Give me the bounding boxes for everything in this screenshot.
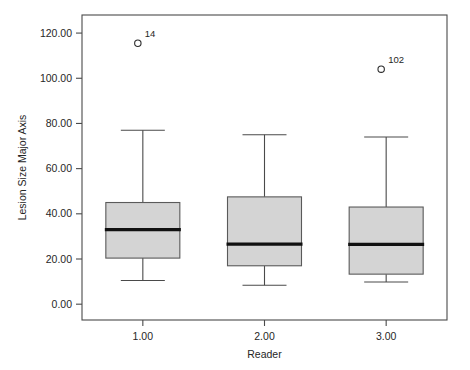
boxplot-canvas: 0.0020.0040.0060.0080.00100.00120.00 1.0… <box>0 0 470 370</box>
box-iqr-rect <box>228 197 302 266</box>
box-iqr-rect <box>349 207 423 274</box>
y-tick-label: 40.00 <box>46 207 72 219</box>
y-tick-label: 120.00 <box>40 27 72 39</box>
y-axis-title: Lesion Size Major Axis <box>16 115 28 221</box>
y-tick-label: 60.00 <box>46 162 72 174</box>
outlier-label: 102 <box>388 54 404 65</box>
y-tick-label: 20.00 <box>46 253 72 265</box>
y-tick-label: 100.00 <box>40 72 72 84</box>
x-axis-title: Reader <box>247 348 282 360</box>
x-tick-label: 3.00 <box>376 330 397 342</box>
x-tick-label: 2.00 <box>254 330 275 342</box>
outlier-label: 14 <box>145 28 156 39</box>
x-tick-label: 1.00 <box>133 330 154 342</box>
y-tick-label: 80.00 <box>46 117 72 129</box>
boxplot-chart: 0.0020.0040.0060.0080.00100.00120.00 1.0… <box>0 0 470 370</box>
y-tick-label: 0.00 <box>52 298 73 310</box>
